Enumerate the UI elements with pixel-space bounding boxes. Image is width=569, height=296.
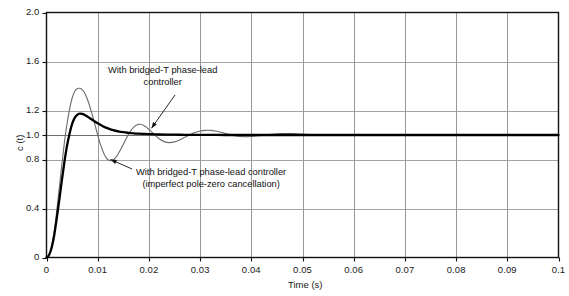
annotation-phase-lead-line2: controller xyxy=(108,77,217,89)
y-axis-tick-label: 1.2 xyxy=(6,104,40,115)
y-axis-tick-label: 0 xyxy=(6,251,40,262)
y-axis-label: c (t) xyxy=(14,135,25,151)
x-axis-tick-label: 0.1 xyxy=(539,264,569,275)
annotation-imperfect-line1: With bridged-T phase-lead controller xyxy=(136,167,286,179)
data-curve xyxy=(47,88,559,257)
x-axis-tick-label: 0.06 xyxy=(334,264,374,275)
x-axis-tick-label: 0 xyxy=(27,264,67,275)
x-axis-tick-label: 0.02 xyxy=(129,264,169,275)
x-axis-tick-label: 0.04 xyxy=(231,264,271,275)
x-axis-tick-label: 0.05 xyxy=(283,264,323,275)
annotation-arrowhead xyxy=(111,160,118,165)
y-axis-tick-label: 0.8 xyxy=(6,153,40,164)
axis-tickmarks xyxy=(43,14,560,262)
x-axis-tick-label: 0.09 xyxy=(487,264,527,275)
annotation-arrowhead xyxy=(152,122,157,128)
x-axis-tick-label: 0.07 xyxy=(385,264,425,275)
annotation-imperfect-cancellation: With bridged-T phase-lead controller (im… xyxy=(136,167,286,190)
annotation-imperfect-line2: (imperfect pole-zero cancellation) xyxy=(136,179,286,191)
y-axis-tick-label: 0.4 xyxy=(6,202,40,213)
x-axis-tick-label: 0.01 xyxy=(78,264,118,275)
data-curves xyxy=(47,88,559,257)
x-axis-label: Time (s) xyxy=(288,279,322,290)
chart-plot-svg xyxy=(0,0,569,296)
y-axis-tick-label: 2.0 xyxy=(6,6,40,17)
y-axis-tick-label: 1.6 xyxy=(6,55,40,66)
x-axis-tick-label: 0.08 xyxy=(436,264,476,275)
annotation-phase-lead-line1: With bridged-T phase-lead xyxy=(108,65,217,77)
annotation-phase-lead: With bridged-T phase-lead controller xyxy=(108,65,217,88)
chart-figure: 00.40.81.01.21.62.0 00.010.020.030.040.0… xyxy=(0,0,569,296)
x-axis-tick-label: 0.03 xyxy=(180,264,220,275)
